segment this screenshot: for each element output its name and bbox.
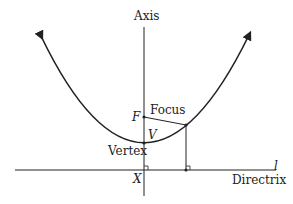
axis-label: Axis: [134, 10, 159, 22]
focus-label: Focus: [150, 104, 186, 116]
foot-label: X: [133, 173, 142, 185]
parabola-diagram: Axis F Focus V Vertex X l Directrix: [0, 0, 293, 204]
directrix-label: Directrix: [232, 174, 286, 186]
focus-point: [142, 115, 145, 118]
right-angle-mark-x: [144, 166, 148, 170]
parabola-point: [184, 123, 187, 126]
vertex-point-label: V: [148, 129, 157, 141]
foot-point: [184, 168, 187, 171]
vertex-label: Vertex: [108, 145, 147, 157]
directrix-line-label: l: [274, 160, 278, 172]
focus-point-label: F: [132, 111, 140, 123]
parabola-curve: [41, 35, 249, 143]
focus-segment: [144, 117, 186, 125]
